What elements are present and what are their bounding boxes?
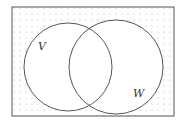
set-w-label: W [133,87,146,100]
venn-diagram: V W [0,0,181,129]
set-v-label: V [38,40,47,53]
